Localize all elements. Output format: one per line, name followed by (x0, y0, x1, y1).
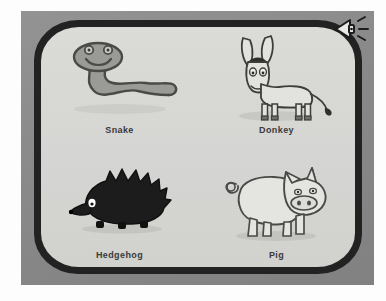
pig-icon (212, 152, 342, 244)
animal-card-donkey[interactable]: Donkey (198, 27, 355, 147)
animal-label-snake: Snake (105, 124, 134, 137)
speaker-icon (332, 15, 372, 43)
animal-label-hedgehog: Hedgehog (96, 249, 143, 262)
animal-card-hedgehog[interactable]: Hedgehog (41, 147, 198, 267)
animal-label-pig: Pig (269, 249, 284, 262)
animal-card-pig[interactable]: Pig (198, 147, 355, 267)
pig-illustration[interactable] (198, 147, 355, 249)
animal-label-donkey: Donkey (259, 124, 294, 137)
hedgehog-illustration[interactable] (41, 147, 198, 249)
donkey-icon (217, 28, 337, 124)
snake-icon (50, 33, 190, 119)
animal-card-snake[interactable]: Snake (41, 27, 198, 147)
snake-illustration[interactable] (41, 27, 198, 124)
animal-grid: Snake (41, 27, 355, 267)
hedgehog-icon (58, 159, 182, 237)
sound-button[interactable] (330, 14, 374, 44)
app-root: Snake (0, 0, 386, 301)
